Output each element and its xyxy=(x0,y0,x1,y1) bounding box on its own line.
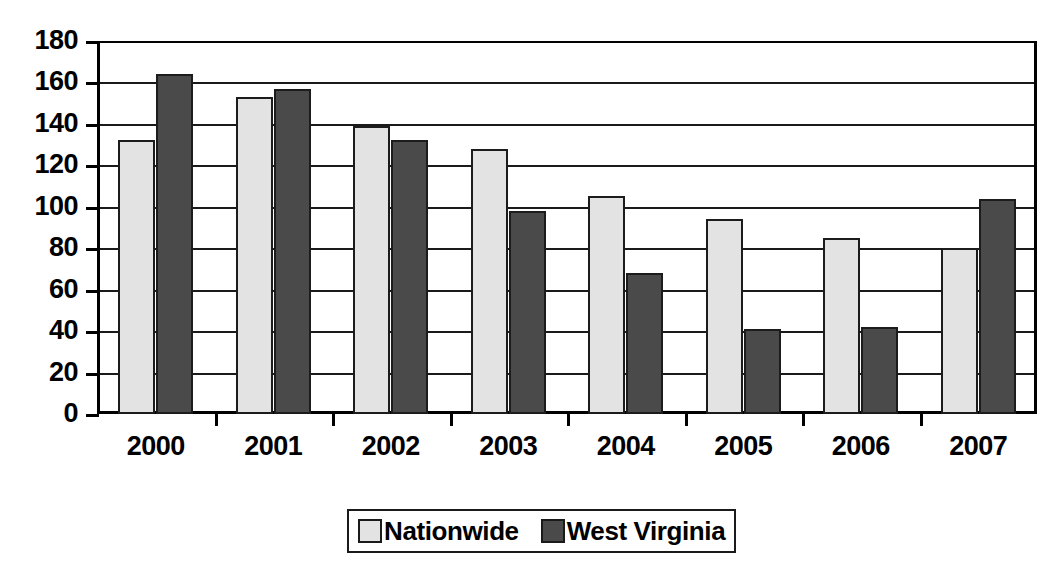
y-axis-tick-mark xyxy=(86,207,99,210)
y-axis-tick-mark xyxy=(86,82,99,85)
bar-nationwide-2002 xyxy=(353,126,390,414)
x-axis-tick-label: 2004 xyxy=(567,432,685,462)
y-axis-tick-mark xyxy=(86,331,99,334)
bar-nationwide-2001 xyxy=(236,97,273,414)
bar-west-virginia-2004 xyxy=(626,273,663,414)
y-axis-tick-label: 100 xyxy=(0,193,78,220)
y-axis-tick-mark xyxy=(86,41,99,44)
bar-nationwide-2003 xyxy=(471,149,508,414)
x-axis-tick-mark xyxy=(450,414,453,426)
x-axis-tick-mark xyxy=(332,414,335,426)
bar-west-virginia-2002 xyxy=(391,140,428,414)
bar-nationwide-2007 xyxy=(941,248,978,414)
y-axis-tick-labels: 180160140120100806040200 xyxy=(0,0,78,583)
y-axis-tick-label: 40 xyxy=(0,317,78,344)
bar-west-virginia-2007 xyxy=(979,199,1016,415)
y-axis-tick-label: 180 xyxy=(0,27,78,54)
x-axis-tick-label: 2005 xyxy=(685,432,803,462)
y-axis-tick-label: 140 xyxy=(0,110,78,137)
x-axis-tick-label: 2001 xyxy=(215,432,333,462)
x-axis-tick-label: 2006 xyxy=(802,432,920,462)
x-axis-tick-label: 2003 xyxy=(450,432,568,462)
x-axis-tick-mark xyxy=(567,414,570,426)
x-axis-tick-label: 2002 xyxy=(332,432,450,462)
y-axis-tick-label: 80 xyxy=(0,234,78,261)
y-axis-tick-mark xyxy=(86,165,99,168)
y-axis-tick-mark xyxy=(86,414,99,417)
chart-legend: NationwideWest Virginia xyxy=(347,509,736,553)
y-axis-tick-mark xyxy=(86,124,99,127)
legend-entry-west-virginia: West Virginia xyxy=(541,518,726,544)
bar-west-virginia-2001 xyxy=(274,89,311,414)
bars-layer xyxy=(97,41,1037,414)
y-axis-tick-mark xyxy=(86,248,99,251)
y-axis-tick-label: 160 xyxy=(0,68,78,95)
bar-west-virginia-2006 xyxy=(861,327,898,414)
y-axis-tick-mark xyxy=(86,373,99,376)
bar-nationwide-2005 xyxy=(706,219,743,414)
y-axis-tick-label: 60 xyxy=(0,276,78,303)
x-axis-tick-mark xyxy=(920,414,923,426)
legend-swatch-icon xyxy=(541,519,565,543)
bar-west-virginia-2000 xyxy=(156,74,193,414)
y-axis-tick-label: 20 xyxy=(0,359,78,386)
y-axis-tick-mark xyxy=(86,290,99,293)
bar-west-virginia-2005 xyxy=(744,329,781,414)
y-axis-tick-label: 120 xyxy=(0,151,78,178)
y-axis-tick-label: 0 xyxy=(0,400,78,427)
bar-west-virginia-2003 xyxy=(509,211,546,414)
legend-swatch-icon xyxy=(358,519,382,543)
bar-chart: 180160140120100806040200 200020012002200… xyxy=(0,0,1063,583)
bar-nationwide-2004 xyxy=(588,196,625,414)
x-axis-tick-mark xyxy=(215,414,218,426)
x-axis-tick-label: 2007 xyxy=(920,432,1038,462)
legend-label: Nationwide xyxy=(384,518,519,544)
bar-nationwide-2006 xyxy=(823,238,860,414)
x-axis-tick-labels: 20002001200220032004200520062007 xyxy=(97,432,1037,472)
x-axis-tick-mark xyxy=(802,414,805,426)
x-axis-tick-label: 2000 xyxy=(97,432,215,462)
legend-label: West Virginia xyxy=(567,518,726,544)
x-axis-tick-mark xyxy=(685,414,688,426)
bar-nationwide-2000 xyxy=(118,140,155,414)
legend-entry-nationwide: Nationwide xyxy=(358,518,519,544)
x-axis-tick-marks xyxy=(97,414,1037,428)
